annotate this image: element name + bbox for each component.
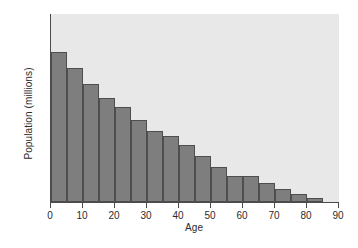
- x-tick-label: 80: [291, 210, 321, 221]
- x-tick-mark: [82, 203, 83, 208]
- x-axis-label: Age: [50, 222, 338, 233]
- x-tick-label: 70: [259, 210, 289, 221]
- x-tick-label: 40: [163, 210, 193, 221]
- x-tick-mark: [242, 203, 243, 208]
- x-tick-label: 90: [323, 210, 353, 221]
- x-tick-mark: [114, 203, 115, 208]
- x-tick-label: 10: [67, 210, 97, 221]
- x-tick-mark: [338, 203, 339, 208]
- x-tick-label: 30: [131, 210, 161, 221]
- x-tick-label: 20: [99, 210, 129, 221]
- x-tick-mark: [274, 203, 275, 208]
- x-tick-mark: [146, 203, 147, 208]
- x-tick-mark: [210, 203, 211, 208]
- x-tick-label: 0: [35, 210, 65, 221]
- x-tick-mark: [178, 203, 179, 208]
- x-tick-mark: [50, 203, 51, 208]
- x-tick-mark: [306, 203, 307, 208]
- x-tick-label: 50: [195, 210, 225, 221]
- x-tick-label: 60: [227, 210, 257, 221]
- population-by-age-bar-chart: Population (millions) 020406080100 01020…: [0, 0, 358, 248]
- x-axis-ticks: 0102030405060708090: [0, 0, 358, 248]
